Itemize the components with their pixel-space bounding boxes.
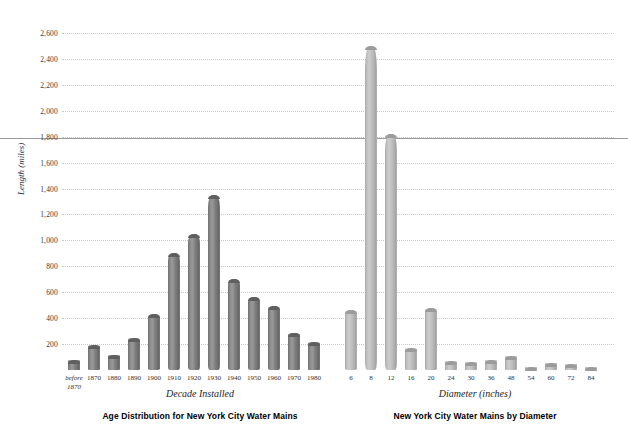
x-axis-tick-label: 1930 [207,374,221,383]
x-axis-title-chart2: Diameter (inches) [439,388,511,399]
x-axis-tick-label: 20 [428,374,435,383]
x-axis-tick-label: 12 [388,374,395,383]
y-axis-tick-label: 400 [0,314,58,323]
x-axis-tick-label: 1900 [147,374,161,383]
bar [88,345,100,370]
bar [565,364,577,370]
bar [128,338,140,370]
bar [308,342,320,370]
bars-layer [62,20,614,370]
y-axis-tick-label: 2,000 [0,106,58,115]
bar [425,308,437,370]
bar [445,361,457,370]
bar [188,234,200,370]
bar [168,253,180,370]
x-axis-tick-label: 72 [568,374,575,383]
x-axis-tick-label: 48 [508,374,515,383]
bar [288,333,300,370]
x-axis-tick-label: 6 [349,374,353,383]
x-axis-tick-label: before 1870 [65,374,83,391]
bar [585,367,597,370]
x-axis-tick-label: 84 [588,374,595,383]
bar [108,355,120,370]
y-axis-tick-label: 200 [0,340,58,349]
y-axis-tick-label: 2,600 [0,28,58,37]
y-axis-tick-label: 1,200 [0,210,58,219]
bar [148,314,160,370]
bar [385,134,397,370]
y-axis-tick-label: 600 [0,288,58,297]
bar [545,363,557,370]
bar [505,356,517,370]
x-axis-tick-label: 16 [408,374,415,383]
bar [365,46,377,370]
x-axis-tick-label: 1940 [227,374,241,383]
x-axis-tick-label: 36 [488,374,495,383]
x-axis-tick-label: 1910 [167,374,181,383]
x-axis-tick-label: 30 [468,374,475,383]
x-axis-tick-label: 1980 [307,374,321,383]
figure-canvas: 2004006008001,0001,2001,4001,6001,8002,0… [0,0,628,432]
x-axis-tick-label: 60 [548,374,555,383]
bar [248,297,260,370]
y-axis-tick-label: 800 [0,262,58,271]
x-axis-tick-label: 1960 [267,374,281,383]
x-axis-tick-label: 1870 [87,374,101,383]
bar [268,306,280,370]
bar [208,195,220,370]
bar [68,360,80,370]
x-axis-tick-label: 1880 [107,374,121,383]
x-axis-tick-label: 1920 [187,374,201,383]
chart-caption-2: New York City Water Mains by Diameter [393,411,556,421]
bar [485,360,497,370]
bar [405,348,417,370]
y-axis-tick-label: 2,200 [0,80,58,89]
y-axis-tick-label: 1,600 [0,158,58,167]
bar [465,362,477,370]
bar [228,279,240,370]
bar [525,367,537,370]
y-axis-tick-label: 1,000 [0,236,58,245]
x-axis-tick-label: 8 [369,374,373,383]
chart-caption-1: Age Distribution for New York City Water… [102,411,297,421]
y-axis-tick-label: 1,400 [0,184,58,193]
x-axis-tick-label: 54 [528,374,535,383]
bar [345,310,357,370]
y-axis-tick-label: 1,800 [0,132,58,141]
x-axis-tick-label: 1890 [127,374,141,383]
x-axis-tick-label: 24 [448,374,455,383]
x-axis-tick-label: 1970 [287,374,301,383]
x-axis-title-chart1: Decade Installed [166,388,234,399]
x-axis-tick-label: 1950 [247,374,261,383]
y-axis-tick-label: 2,400 [0,54,58,63]
y-axis-title: Length (miles) [16,143,26,195]
